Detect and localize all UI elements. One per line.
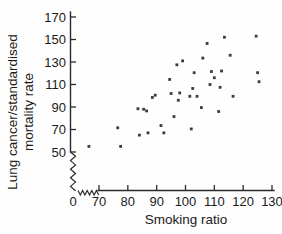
- data-point: [178, 92, 181, 95]
- y-axis-break-icon: [71, 152, 76, 191]
- y-tick-label-70: 70: [52, 122, 66, 137]
- data-point: [206, 42, 209, 45]
- data-point: [138, 134, 141, 137]
- x-axis-title: Smoking ratio: [145, 212, 228, 227]
- x-axis-tick-labels: 0708090100110120130: [69, 194, 282, 209]
- data-point: [177, 99, 180, 102]
- scatter-plot-figure: 507090110130150170 0708090100110120130 S…: [0, 0, 282, 234]
- data-point: [255, 35, 258, 38]
- data-point: [168, 78, 171, 81]
- x-tick-label-80: 80: [121, 194, 135, 209]
- y-axis-tick-labels: 507090110130150170: [44, 10, 66, 160]
- x-axis-tick-marks: [99, 185, 272, 191]
- data-point: [116, 126, 119, 129]
- y-tick-label-90: 90: [52, 100, 66, 115]
- x-tick-label-130: 130: [261, 194, 282, 209]
- x-tick-label-120: 120: [232, 194, 254, 209]
- data-point: [154, 94, 157, 97]
- y-tick-label-130: 130: [44, 55, 66, 70]
- data-point-series: [88, 35, 261, 148]
- data-point: [181, 59, 184, 62]
- chart-canvas: 507090110130150170 0708090100110120130 S…: [0, 0, 282, 234]
- data-point: [137, 107, 140, 110]
- data-point: [170, 92, 173, 95]
- data-point: [160, 124, 163, 127]
- data-point: [213, 76, 216, 79]
- y-tick-label-170: 170: [44, 10, 66, 25]
- x-tick-label-90: 90: [149, 194, 163, 209]
- data-point: [145, 110, 148, 113]
- y-axis-title-line2: mortality rate: [21, 73, 36, 151]
- y-axis-title-line1: Lung cancer/standardised: [5, 34, 20, 189]
- data-point: [173, 115, 176, 118]
- data-point: [209, 83, 212, 86]
- x-tick-label-70: 70: [92, 194, 106, 209]
- data-point: [196, 95, 199, 98]
- data-point: [193, 71, 196, 74]
- data-point: [201, 57, 204, 60]
- x-tick-label-100: 100: [175, 194, 197, 209]
- y-axis-tick-marks: [71, 17, 77, 152]
- data-point: [210, 70, 213, 73]
- data-point: [256, 71, 259, 74]
- data-point: [147, 131, 150, 134]
- data-point: [223, 36, 226, 39]
- x-tick-label-110: 110: [204, 194, 225, 209]
- y-tick-label-110: 110: [45, 77, 66, 92]
- data-point: [188, 95, 191, 98]
- data-point: [219, 86, 222, 89]
- data-point: [162, 131, 165, 134]
- data-point: [142, 108, 145, 111]
- data-point: [200, 106, 203, 109]
- data-point: [190, 128, 193, 131]
- data-point: [217, 110, 220, 113]
- data-point: [258, 80, 261, 83]
- x-tick-label-0: 0: [69, 194, 76, 209]
- data-point: [119, 145, 122, 148]
- data-point: [151, 96, 154, 99]
- data-point: [220, 70, 223, 73]
- data-point: [229, 54, 232, 57]
- data-point: [232, 95, 235, 98]
- data-point: [88, 145, 91, 148]
- data-point: [175, 63, 178, 66]
- data-point: [191, 87, 194, 90]
- y-tick-label-150: 150: [44, 32, 66, 47]
- y-tick-label-50: 50: [52, 145, 66, 160]
